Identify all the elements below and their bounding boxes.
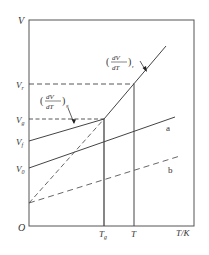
vg-label: Vg	[16, 115, 25, 126]
svg-text:): )	[128, 56, 131, 68]
line-b-label: b	[168, 165, 173, 175]
glass-line	[29, 119, 104, 141]
line-a	[29, 117, 175, 168]
deriv-g-annotation: ( dV dT ) g	[40, 93, 69, 111]
y-axis-label: V	[18, 15, 26, 26]
free-volume-guide	[29, 119, 104, 203]
x-axis-label: T/K	[176, 228, 191, 238]
svg-text:dT: dT	[46, 103, 55, 111]
vr-label: Vr	[16, 80, 25, 91]
svg-text:dV: dV	[46, 93, 55, 101]
origin-label: O	[18, 222, 25, 233]
svg-text:g: g	[66, 103, 69, 108]
svg-text:r: r	[132, 64, 134, 69]
svg-text:): )	[62, 95, 65, 107]
deriv-r-annotation: ( dV dT ) r	[106, 54, 134, 72]
t-label: T	[131, 229, 137, 239]
arrow-g-head	[72, 119, 77, 124]
svg-text:(: (	[106, 56, 110, 68]
v0-label: V0	[16, 164, 25, 175]
svg-text:(: (	[40, 95, 44, 107]
svg-text:dV: dV	[112, 54, 121, 62]
line-a-label: a	[166, 123, 170, 133]
tg-label: Tg	[99, 229, 107, 240]
volume-temperature-diagram: V O T/K Vr Vg Vf V0 Tg T a b ( dV dT ) g…	[0, 0, 209, 255]
svg-text:dT: dT	[112, 64, 121, 72]
vf-label: Vf	[16, 137, 25, 148]
